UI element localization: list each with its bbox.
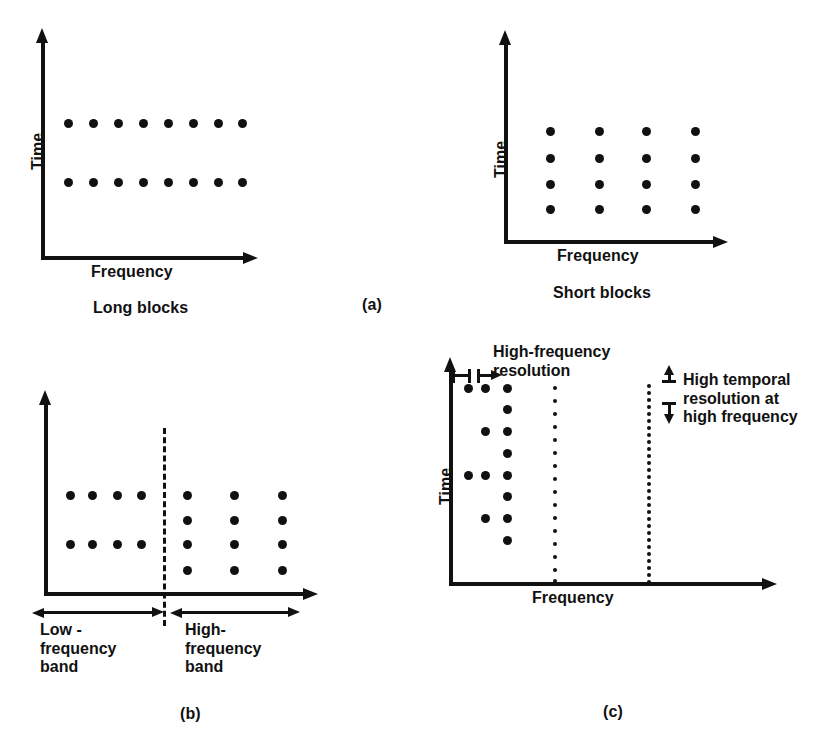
high-band-label: High- frequency band bbox=[185, 621, 261, 677]
dotted-col-5-dot bbox=[647, 489, 651, 493]
low-band-label: Low - frequency band bbox=[40, 621, 116, 677]
high-band-span-line bbox=[180, 611, 292, 614]
grid-dot-high-band bbox=[278, 540, 287, 549]
dotted-col-5-dot bbox=[647, 440, 651, 444]
x-axis-a-right bbox=[504, 240, 716, 244]
grid-dot bbox=[546, 154, 555, 163]
grid-dot bbox=[214, 178, 223, 187]
grid-dot-c-col3 bbox=[503, 427, 512, 436]
dotted-col-5-dot bbox=[647, 391, 651, 395]
dotted-col-4-dot bbox=[553, 529, 557, 533]
low-band-arrow-right-head bbox=[152, 607, 164, 617]
grid-dot bbox=[595, 205, 604, 214]
dotted-col-4-dot bbox=[553, 399, 557, 403]
dotted-col-4-dot bbox=[553, 542, 557, 546]
grid-dot bbox=[189, 119, 198, 128]
subfigure-label-b: (b) bbox=[180, 705, 201, 723]
grid-dot-high-band bbox=[230, 540, 239, 549]
grid-dot-c-col3 bbox=[503, 514, 512, 523]
x-axis-arrow-a-right bbox=[713, 236, 728, 248]
dotted-col-5-dot bbox=[647, 538, 651, 542]
low-band-span-line bbox=[42, 611, 156, 614]
grid-dot-high-band bbox=[183, 566, 192, 575]
dotted-col-5-dot bbox=[647, 412, 651, 416]
subfigure-label-a: (a) bbox=[362, 296, 382, 314]
grid-dot-high-band bbox=[183, 491, 192, 500]
grid-dot-high-band bbox=[230, 491, 239, 500]
grid-dot bbox=[238, 178, 247, 187]
grid-dot bbox=[595, 127, 604, 136]
dotted-col-5-dot bbox=[647, 531, 651, 535]
dotted-col-5-dot bbox=[647, 405, 651, 409]
grid-dot bbox=[164, 178, 173, 187]
dotted-col-4-dot bbox=[553, 477, 557, 481]
grid-dot-low-band bbox=[137, 540, 146, 549]
dotted-col-5-dot bbox=[647, 433, 651, 437]
dotted-col-4-dot bbox=[553, 438, 557, 442]
y-axis-label-c: Time bbox=[437, 468, 455, 505]
grid-dot-c-col2 bbox=[481, 471, 490, 480]
grid-dot bbox=[691, 154, 700, 163]
grid-dot bbox=[238, 119, 247, 128]
grid-dot bbox=[214, 119, 223, 128]
dotted-col-5-dot bbox=[647, 524, 651, 528]
grid-dot bbox=[546, 205, 555, 214]
grid-dot-high-band bbox=[230, 566, 239, 575]
grid-dot bbox=[189, 178, 198, 187]
grid-dot-c-col2 bbox=[481, 514, 490, 523]
grid-dot-c-col1 bbox=[464, 471, 473, 480]
dotted-col-5-dot bbox=[647, 496, 651, 500]
grid-dot bbox=[642, 180, 651, 189]
dotted-col-5-dot bbox=[647, 580, 651, 584]
panel-a-right: Time Frequency Short blocks bbox=[440, 0, 829, 330]
grid-dot bbox=[89, 178, 98, 187]
dotted-col-5-dot bbox=[647, 517, 651, 521]
grid-dot bbox=[546, 180, 555, 189]
dotted-col-4-dot bbox=[553, 516, 557, 520]
dotted-col-5-dot bbox=[647, 559, 651, 563]
x-axis-a-left bbox=[41, 256, 246, 260]
dotted-col-5-dot bbox=[647, 447, 651, 451]
grid-dot-c-col2 bbox=[481, 427, 490, 436]
grid-dot-low-band bbox=[113, 491, 122, 500]
grid-dot-c-col3 bbox=[503, 449, 512, 458]
dotted-col-4-dot bbox=[553, 412, 557, 416]
dotted-col-4-dot bbox=[553, 490, 557, 494]
grid-dot-low-band bbox=[113, 540, 122, 549]
x-axis-label-a-right: Frequency bbox=[557, 247, 639, 265]
grid-dot-high-band bbox=[183, 516, 192, 525]
grid-dot-low-band bbox=[88, 540, 97, 549]
dotted-col-4-dot bbox=[553, 464, 557, 468]
dotted-col-5-dot bbox=[647, 398, 651, 402]
temporal-marker-lower-arrow-head bbox=[664, 414, 674, 424]
y-axis-arrow-a-left bbox=[36, 28, 48, 43]
grid-dot-high-band bbox=[278, 566, 287, 575]
x-axis-label-a-left: Frequency bbox=[91, 263, 173, 281]
panel-caption-a-left: Long blocks bbox=[93, 299, 188, 317]
dotted-col-4-dot bbox=[553, 425, 557, 429]
x-axis-b bbox=[44, 592, 306, 596]
resolution-bracket-1-right-tick bbox=[468, 369, 471, 383]
dotted-col-4-dot bbox=[553, 451, 557, 455]
dotted-col-5-dot bbox=[647, 475, 651, 479]
grid-dot-high-band bbox=[278, 516, 287, 525]
dotted-col-5-dot bbox=[647, 510, 651, 514]
grid-dot-c-col3 bbox=[503, 471, 512, 480]
panel-a-left: Time Frequency Long blocks bbox=[0, 0, 415, 330]
figure-canvas: Time Frequency Long blocks Time Frequenc… bbox=[0, 0, 829, 743]
dotted-col-4-dot bbox=[553, 555, 557, 559]
band-divider-dashed-line bbox=[163, 428, 166, 626]
grid-dot-low-band bbox=[66, 491, 75, 500]
dotted-col-5-dot bbox=[647, 468, 651, 472]
grid-dot-high-band bbox=[278, 491, 287, 500]
grid-dot bbox=[642, 205, 651, 214]
dotted-col-5-dot bbox=[647, 545, 651, 549]
grid-dot-c-col3 bbox=[503, 384, 512, 393]
grid-dot bbox=[642, 154, 651, 163]
x-axis-label-c: Frequency bbox=[532, 589, 614, 607]
grid-dot bbox=[114, 119, 123, 128]
grid-dot bbox=[642, 127, 651, 136]
dotted-col-4-dot bbox=[553, 568, 557, 572]
temporal-marker-upper-arrow-head bbox=[664, 365, 674, 375]
dotted-col-4-dot bbox=[553, 579, 557, 583]
